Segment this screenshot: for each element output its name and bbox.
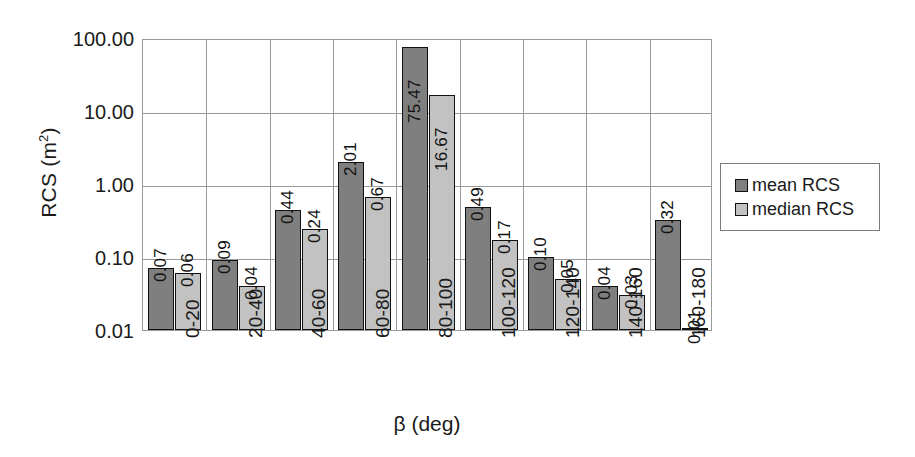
vertical-gridline bbox=[586, 40, 587, 330]
bar-value-label: 16.67 bbox=[433, 127, 450, 171]
x-axis-tick-label-40-60: 40-60 bbox=[309, 288, 328, 338]
bar-mean-100-120 bbox=[465, 207, 491, 330]
bar-value-label: 0.09 bbox=[216, 240, 233, 274]
legend-swatch-mean-icon bbox=[735, 179, 748, 192]
x-axis-tick-label-160-180: 160-180 bbox=[689, 267, 708, 338]
vertical-gridline bbox=[396, 40, 397, 330]
bar-value-label: 0.07 bbox=[152, 248, 169, 282]
y-axis-tick-label: 0.01 bbox=[48, 321, 134, 341]
x-axis-tick-label-80-100: 80-100 bbox=[436, 278, 455, 338]
vertical-gridline bbox=[460, 40, 461, 330]
x-axis-tick-label-60-80: 60-80 bbox=[373, 288, 392, 338]
bar-value-label: 0.06 bbox=[179, 253, 196, 287]
bar-value-label: 0.32 bbox=[659, 200, 676, 234]
x-axis-tick-label-20-40: 20-40 bbox=[246, 288, 265, 338]
chart-legend: mean RCSmedian RCS bbox=[720, 163, 880, 231]
bar-mean-160-180 bbox=[655, 220, 681, 330]
y-axis-tick-labels: 100.0010.001.000.100.01 bbox=[44, 0, 134, 457]
x-axis-tick-label-0-20: 0-20 bbox=[183, 299, 202, 338]
bar-value-label: 0.10 bbox=[532, 237, 549, 271]
x-axis-title: β (deg) bbox=[142, 412, 712, 436]
bar-mean-60-80 bbox=[338, 162, 364, 330]
y-axis-tick-label: 1.00 bbox=[48, 175, 134, 195]
bar-value-label: 0.44 bbox=[279, 190, 296, 224]
bar-mean-40-60 bbox=[275, 210, 301, 330]
legend-entry-median: median RCS bbox=[735, 197, 879, 221]
y-axis-tick-label: 10.00 bbox=[48, 102, 134, 122]
bar-value-label: 0.67 bbox=[369, 177, 386, 211]
x-axis-tick-label-140-160: 140-160 bbox=[626, 267, 645, 338]
x-axis-tick-label-120-140: 120-140 bbox=[563, 267, 582, 338]
vertical-gridline bbox=[270, 40, 271, 330]
bar-value-label: 2.01 bbox=[342, 142, 359, 176]
legend-swatch-median-icon bbox=[735, 203, 748, 216]
bar-value-label: 75.47 bbox=[406, 79, 423, 123]
vertical-gridline bbox=[523, 40, 524, 330]
legend-label: mean RCS bbox=[752, 176, 840, 194]
bar-value-label: 0.24 bbox=[306, 209, 323, 243]
vertical-gridline bbox=[206, 40, 207, 330]
y-axis-tick-label: 0.10 bbox=[48, 248, 134, 268]
x-axis-tick-label-100-120: 100-120 bbox=[499, 267, 518, 338]
legend-entry-mean: mean RCS bbox=[735, 173, 879, 197]
legend-label: median RCS bbox=[752, 200, 854, 218]
bar-value-label: 0.49 bbox=[469, 187, 486, 221]
y-axis-tick-label: 100.00 bbox=[48, 29, 134, 49]
rcs-bar-chart-figure: RCS (m2) 100.0010.001.000.100.01 0.070.0… bbox=[0, 0, 915, 457]
bar-value-label: 0.04 bbox=[596, 266, 613, 300]
vertical-gridline bbox=[650, 40, 651, 330]
vertical-gridline bbox=[333, 40, 334, 330]
bar-value-label: 0.17 bbox=[496, 220, 513, 254]
